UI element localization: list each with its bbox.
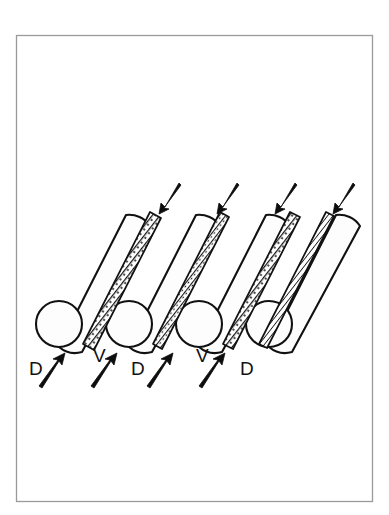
cylinder-array-diagram: D V D V D [0,0,389,515]
cylinder-1-end-cap [36,301,82,347]
label-v-1: V [93,345,106,366]
label-d-2: D [131,358,145,379]
figure-root: D V D V D [0,0,389,515]
label-v-2: V [196,345,209,366]
label-d-1: D [29,358,43,379]
label-d-3: D [240,358,254,379]
